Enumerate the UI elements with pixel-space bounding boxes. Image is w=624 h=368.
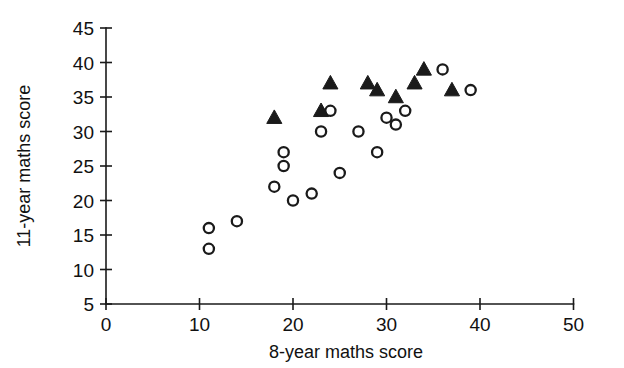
data-point-open-circle (381, 113, 391, 123)
data-point-open-circle (353, 126, 363, 136)
plot-canvas: 51015202530354045 01020304050 8-year mat… (0, 0, 624, 368)
data-point-open-circle (269, 182, 279, 192)
data-point-open-circle (288, 195, 298, 205)
x-axis: 01020304050 (101, 298, 584, 335)
data-point-open-circle (372, 147, 382, 157)
data-point-open-circle (391, 120, 401, 130)
data-point-open-circle (279, 161, 289, 171)
y-tick-label-35: 35 (73, 87, 94, 108)
series-open-circles (204, 64, 476, 254)
data-point-open-circle (232, 216, 242, 226)
data-point-filled-triangle (407, 75, 422, 89)
data-point-open-circle (279, 147, 289, 157)
y-tick-label-25: 25 (73, 156, 94, 177)
data-point-open-circle (204, 244, 214, 254)
x-tick-label-40: 40 (469, 314, 490, 335)
data-point-filled-triangle (444, 82, 459, 96)
y-tick-label-40: 40 (73, 53, 94, 74)
x-axis-title: 8-year maths score (269, 342, 423, 362)
data-point-open-circle (400, 106, 410, 116)
y-tick-label-15: 15 (73, 225, 94, 246)
data-point-open-circle (307, 189, 317, 199)
data-point-open-circle (316, 126, 326, 136)
data-point-open-circle (204, 223, 214, 233)
x-tick-label-20: 20 (282, 314, 303, 335)
data-point-filled-triangle (267, 110, 282, 124)
x-tick-label-50: 50 (563, 314, 584, 335)
data-point-open-circle (335, 168, 345, 178)
data-point-open-circle (466, 85, 476, 95)
data-point-filled-triangle (360, 75, 375, 89)
y-tick-label-10: 10 (73, 260, 94, 281)
x-tick-label-10: 10 (189, 314, 210, 335)
data-point-filled-triangle (416, 62, 431, 76)
data-point-filled-triangle (323, 75, 338, 89)
y-tick-label-30: 30 (73, 122, 94, 143)
x-tick-label-30: 30 (376, 314, 397, 335)
data-point-open-circle (438, 64, 448, 74)
y-axis: 51015202530354045 (73, 18, 112, 315)
y-tick-label-45: 45 (73, 18, 94, 39)
y-tick-label-5: 5 (83, 294, 94, 315)
series-filled-triangles (267, 62, 460, 124)
y-tick-label-20: 20 (73, 191, 94, 212)
scatter-plot-figure: 51015202530354045 01020304050 8-year mat… (0, 0, 624, 368)
x-tick-label-0: 0 (101, 314, 112, 335)
data-point-filled-triangle (388, 89, 403, 103)
y-axis-title: 11-year maths score (14, 85, 34, 248)
data-points-layer (204, 62, 476, 254)
